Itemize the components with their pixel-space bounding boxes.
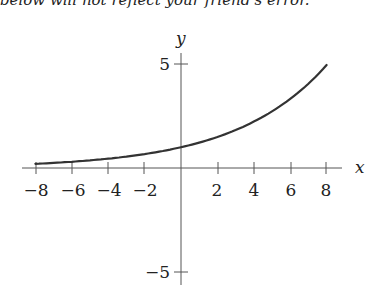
svg-text:−8: −8: [23, 180, 48, 200]
svg-text:−4: −4: [96, 180, 121, 200]
svg-text:−6: −6: [60, 180, 85, 200]
exponential-graph: −8 −6 −4 −2 2 4 6 8 5 −5 x y: [0, 0, 384, 295]
y-axis-label: y: [175, 28, 186, 48]
svg-text:4: 4: [249, 180, 260, 200]
svg-text:−2: −2: [132, 180, 157, 200]
svg-text:2: 2: [212, 180, 223, 200]
y-tick-label-5: 5: [159, 54, 170, 74]
svg-text:8: 8: [321, 180, 332, 200]
svg-text:6: 6: [286, 180, 297, 200]
x-axis-label: x: [355, 157, 365, 177]
y-tick-label-neg5: −5: [145, 262, 170, 282]
x-tick-labels: −8 −6 −4 −2 2 4 6 8: [23, 180, 331, 200]
